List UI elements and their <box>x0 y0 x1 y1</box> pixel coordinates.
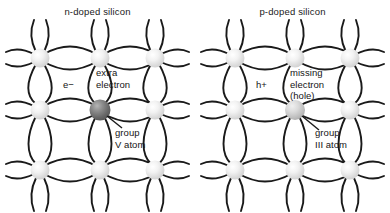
panel-title-p-doped: p-doped silicon <box>195 6 390 18</box>
panel-p-doped-silicon: p-doped silicon h+ missing electron (hol… <box>195 0 390 213</box>
label-group-v-line1: group <box>115 127 140 138</box>
label-extra-electron-line1: extra <box>96 67 117 78</box>
label-group-iii-atom: group III atom <box>315 127 369 150</box>
group-iii-dopant-atom <box>285 100 305 120</box>
label-group-v-atom: group V atom <box>115 127 169 150</box>
label-group-iii-line2: III atom <box>315 139 347 150</box>
label-missing-electron-line3: (hole) <box>290 90 315 101</box>
n-doped-lattice-graphic <box>0 0 195 213</box>
label-extra-electron: extra electron <box>96 67 150 90</box>
doped-silicon-diagram: n-doped silicon e− extra electron group … <box>0 0 390 213</box>
label-group-v-line2: V atom <box>115 139 145 150</box>
label-hole-symbol: h+ <box>256 79 267 91</box>
label-missing-electron-line2: electron <box>290 79 324 90</box>
panel-n-doped-silicon: n-doped silicon e− extra electron group … <box>0 0 195 213</box>
label-missing-electron-line1: missing <box>290 67 323 78</box>
label-missing-electron-hole: missing electron (hole) <box>290 67 344 102</box>
group-v-dopant-atom <box>90 100 111 121</box>
p-doped-lattice-graphic <box>195 0 390 213</box>
label-electron-symbol: e− <box>63 79 74 91</box>
label-extra-electron-line2: electron <box>96 79 130 90</box>
panel-title-n-doped: n-doped silicon <box>0 6 195 18</box>
label-group-iii-line1: group <box>315 127 340 138</box>
